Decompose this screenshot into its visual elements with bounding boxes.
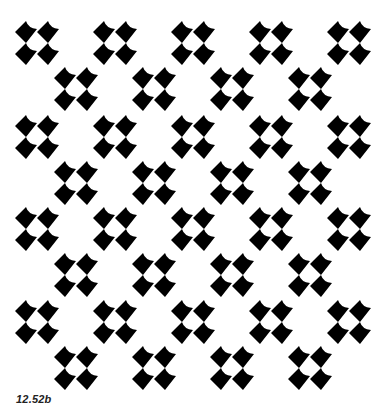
scooped-diamond-motif-icon	[93, 207, 137, 251]
scooped-diamond-motif-icon	[132, 67, 176, 111]
scooped-diamond-motif-icon	[288, 253, 332, 297]
scooped-diamond-motif-icon	[15, 300, 59, 344]
scooped-diamond-motif-icon	[210, 161, 254, 205]
scooped-diamond-motif-icon	[171, 21, 215, 65]
scooped-diamond-motif-icon	[15, 207, 59, 251]
scooped-diamond-motif-icon	[93, 300, 137, 344]
tessellation-pattern	[0, 0, 386, 412]
scooped-diamond-motif-icon	[327, 300, 371, 344]
scooped-diamond-motif-icon	[327, 207, 371, 251]
scooped-diamond-motif-icon	[288, 346, 332, 390]
scooped-diamond-motif-icon	[171, 207, 215, 251]
scooped-diamond-motif-icon	[54, 253, 98, 297]
scooped-diamond-motif-icon	[327, 115, 371, 159]
scooped-diamond-motif-icon	[210, 253, 254, 297]
scooped-diamond-motif-icon	[249, 207, 293, 251]
figure-caption: 12.52b	[16, 393, 51, 405]
scooped-diamond-motif-icon	[93, 115, 137, 159]
scooped-diamond-motif-icon	[327, 21, 371, 65]
scooped-diamond-motif-icon	[15, 115, 59, 159]
scooped-diamond-motif-icon	[210, 346, 254, 390]
scooped-diamond-motif-icon	[171, 115, 215, 159]
scooped-diamond-motif-icon	[210, 67, 254, 111]
scooped-diamond-motif-icon	[132, 161, 176, 205]
scooped-diamond-motif-icon	[288, 161, 332, 205]
scooped-diamond-motif-icon	[54, 67, 98, 111]
scooped-diamond-motif-icon	[132, 253, 176, 297]
scooped-diamond-motif-icon	[54, 346, 98, 390]
scooped-diamond-motif-icon	[54, 161, 98, 205]
scooped-diamond-motif-icon	[249, 21, 293, 65]
scooped-diamond-motif-icon	[15, 21, 59, 65]
scooped-diamond-motif-icon	[93, 21, 137, 65]
scooped-diamond-motif-icon	[249, 300, 293, 344]
scooped-diamond-motif-icon	[171, 300, 215, 344]
scooped-diamond-motif-icon	[288, 67, 332, 111]
motif-grid	[15, 21, 371, 390]
scooped-diamond-motif-icon	[132, 346, 176, 390]
scooped-diamond-motif-icon	[249, 115, 293, 159]
